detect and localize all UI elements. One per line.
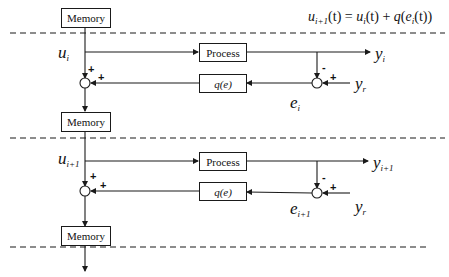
learning-function-block-2: q(e) (199, 182, 247, 201)
sum-sign-side-i1: + (100, 180, 106, 191)
diff-sign-plus-i1: + (330, 182, 336, 193)
process-block-1: Process (199, 43, 247, 62)
sum-sign-side-i: + (98, 72, 104, 83)
reference-label-i: yr (355, 75, 366, 94)
input-label-i: ui (58, 44, 69, 63)
process-block-2: Process (199, 152, 247, 171)
memory-block-2: Memory (61, 112, 111, 132)
update-law-equation: ui+1(t) = ui(t) + q(ei(t)) (308, 10, 432, 26)
diff-sign-minus-i1: - (322, 172, 326, 183)
diff-sign-minus-i: - (322, 62, 326, 73)
sum-sign-top-i: + (88, 64, 94, 75)
error-label-i1: ei+1 (290, 200, 311, 219)
memory-block-1: Memory (61, 8, 111, 28)
output-label-i1: yi+1 (373, 154, 394, 173)
reference-label-i1: yr (355, 198, 366, 217)
diff-sign-plus-i: + (330, 72, 336, 83)
error-label-i: ei (290, 94, 300, 113)
input-label-i1: ui+1 (58, 150, 80, 169)
output-label-i: yi (375, 45, 385, 64)
memory-block-3: Memory (61, 226, 111, 246)
learning-function-block-1: q(e) (199, 74, 247, 93)
sum-sign-top-i1: + (90, 171, 96, 182)
